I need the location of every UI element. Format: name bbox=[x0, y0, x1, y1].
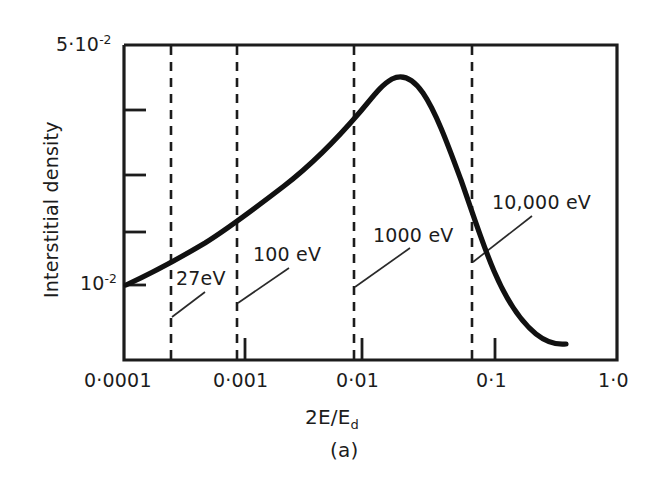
leader-27ev bbox=[172, 292, 205, 317]
y-top-mantissa: 5 bbox=[56, 33, 68, 55]
y-bottom-exponent: -2 bbox=[105, 272, 117, 286]
x-tick-label-0: 0·0001 bbox=[84, 369, 152, 391]
energy-marker-lines bbox=[171, 46, 472, 359]
y-tick-label-top: 5·10-2 bbox=[56, 33, 111, 55]
x-axis-title-sub: d bbox=[351, 417, 359, 432]
x-axis-title-main: 2E/E bbox=[305, 405, 351, 429]
annotation-100ev: 100 eV bbox=[253, 243, 321, 265]
y-axis-title: Interstitial density bbox=[40, 121, 62, 298]
annotation-27ev: 27eV bbox=[176, 267, 226, 289]
leader-100ev bbox=[238, 268, 289, 303]
y-top-exponent: -2 bbox=[99, 33, 111, 47]
y-top-base: 10 bbox=[75, 33, 100, 55]
x-tick-label-1: 0·001 bbox=[213, 369, 268, 391]
y-axis-ticks bbox=[124, 110, 146, 285]
x-axis-ticks bbox=[245, 338, 495, 360]
annotation-1000ev: 1000 eV bbox=[373, 224, 453, 246]
x-tick-label-3: 0·1 bbox=[476, 369, 507, 391]
y-tick-label-bottom: 10-2 bbox=[80, 272, 117, 294]
x-axis-title: 2E/Ed bbox=[305, 405, 359, 432]
leader-1000ev bbox=[355, 248, 410, 287]
annotation-10000ev: 10,000 eV bbox=[492, 191, 591, 213]
figure-panel-a: 5·10-2 10-2 Interstitial density 0·0001 … bbox=[0, 0, 657, 479]
panel-label: (a) bbox=[330, 438, 358, 462]
y-bottom-base: 10 bbox=[80, 272, 105, 294]
x-tick-label-2: 0·01 bbox=[336, 369, 379, 391]
x-tick-label-4: 1·0 bbox=[598, 369, 629, 391]
